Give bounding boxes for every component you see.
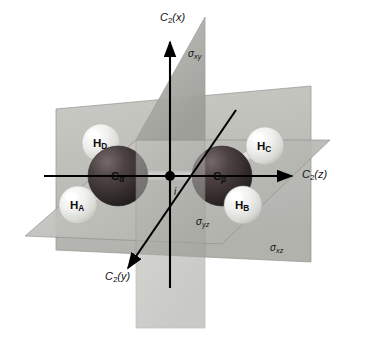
atom-label-c-alpha: Cα [111, 170, 124, 184]
axis-label-c2x: C2(x) [160, 11, 185, 25]
axis-label-c2y: C2(y) [105, 270, 130, 284]
inversion-center-label: i [174, 186, 176, 197]
plane-label-sigma-xy: σxy [188, 48, 201, 61]
atom-label-ha: HA [70, 199, 84, 213]
atom-label-hb: HB [235, 199, 249, 213]
symmetry-diagram-figure: C2(x) C2(y) C2(z) σxy σyz σxz i Cα Cβ HA… [0, 0, 367, 346]
atom-label-c-beta: Cβ [213, 170, 226, 184]
plane-label-sigma-yz: σyz [196, 216, 209, 229]
atom-label-hd: HD [93, 137, 107, 151]
axis-label-c2z: C2(z) [302, 168, 327, 182]
inversion-center-dot [165, 171, 175, 181]
atom-label-hc: HC [257, 140, 271, 154]
plane-label-sigma-xz: σxz [270, 242, 283, 255]
